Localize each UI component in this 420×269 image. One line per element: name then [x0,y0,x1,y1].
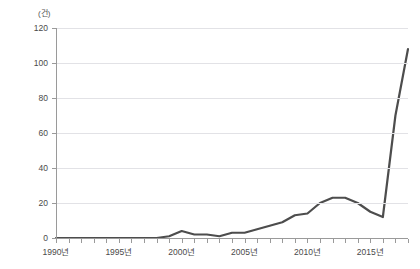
x-axis-tick-mark [119,239,120,243]
x-axis-tick-label: 2010년 [294,245,321,257]
x-axis-tick-mark [370,239,371,243]
x-axis-tick-label: 1995년 [105,245,132,257]
x-axis-tick-mark [408,239,409,243]
x-axis-tick-mark [219,239,220,243]
x-axis-tick-mark [69,239,70,243]
y-axis-tick-mark [52,133,56,134]
x-axis-tick-mark [94,239,95,243]
y-axis-tick-label: 120 [34,23,48,33]
gridline [56,28,408,29]
x-axis-tick-mark [320,239,321,243]
x-axis-tick-mark [144,239,145,243]
line-chart: (건) 020406080100120 1990년1995년2000년2005년… [0,0,420,269]
x-axis-tick-mark [383,239,384,243]
gridline [56,203,408,204]
y-axis-tick-mark [52,168,56,169]
unit-label: (건) [38,7,50,18]
x-axis-tick-mark [106,239,107,243]
x-axis-tick-mark [345,239,346,243]
x-axis-tick-mark [245,239,246,243]
x-axis-tick-label: 1990년 [43,245,70,257]
x-axis-tick-mark [131,239,132,243]
x-axis-tick-mark [270,239,271,243]
y-axis-tick-label: 100 [34,58,48,68]
series-polyline [56,49,408,238]
x-axis-tick-mark [282,239,283,243]
y-axis-tick-mark [52,63,56,64]
y-axis-tick-mark [52,203,56,204]
x-axis-tick-mark [333,239,334,243]
x-axis-tick-mark [358,239,359,243]
x-axis-tick-mark [307,239,308,243]
gridline [56,63,408,64]
x-axis-tick-mark [257,239,258,243]
y-axis-line [56,28,57,239]
x-axis-tick-mark [207,239,208,243]
x-axis-tick-mark [182,239,183,243]
x-axis-tick-mark [232,239,233,243]
x-axis-tick-label: 2015년 [357,245,384,257]
y-axis-tick-labels: 020406080100120 [0,28,48,239]
gridline [56,98,408,99]
y-axis-tick-label: 0 [43,233,48,243]
plot-area [56,28,408,238]
y-axis-tick-label: 80 [39,93,48,103]
x-axis-tick-mark [81,239,82,243]
y-axis-tick-mark [52,28,56,29]
x-axis-tick-mark [194,239,195,243]
x-axis-tick-mark [395,239,396,243]
x-axis-tick-label: 2005년 [231,245,258,257]
x-axis-tick-mark [169,239,170,243]
y-axis-tick-label: 60 [39,128,48,138]
x-axis-tick-mark [56,239,57,243]
x-axis-tick-mark [295,239,296,243]
y-axis-tick-mark [52,98,56,99]
y-axis-tick-label: 20 [39,198,48,208]
x-axis-tick-label: 2000년 [168,245,195,257]
gridline [56,133,408,134]
y-axis-tick-label: 40 [39,163,48,173]
x-axis-tick-mark [157,239,158,243]
gridline [56,168,408,169]
